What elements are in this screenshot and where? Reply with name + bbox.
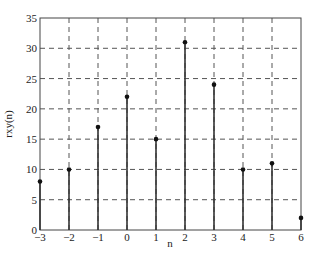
x-tick-label: 0 <box>124 231 130 243</box>
y-tick-label: 0 <box>32 224 38 236</box>
x-tick-label: 6 <box>298 231 304 243</box>
grid-lines <box>40 18 301 230</box>
data-stems <box>38 40 304 230</box>
y-tick-label: 20 <box>26 103 38 115</box>
x-tick-label: 1 <box>153 231 159 243</box>
x-tick-label: 2 <box>182 231 188 243</box>
stem-marker <box>270 161 275 166</box>
x-tick-label: 4 <box>240 231 246 243</box>
x-tick-label: −2 <box>63 231 75 243</box>
stem-marker <box>299 216 304 221</box>
y-tick-label: 5 <box>32 194 38 206</box>
y-tick-label: 30 <box>26 42 38 54</box>
stem-marker <box>38 179 43 184</box>
x-axis-label: n <box>167 237 173 249</box>
y-tick-label: 10 <box>26 163 38 175</box>
stem-marker <box>125 94 130 99</box>
y-tick-label: 25 <box>26 73 38 85</box>
x-tick-label: −1 <box>92 231 104 243</box>
plot-area-frame <box>40 18 301 230</box>
y-tick-label: 35 <box>26 12 38 24</box>
y-axis-label: rxy(n) <box>2 110 15 138</box>
y-axis-ticks: 05101520253035 <box>26 12 38 236</box>
stem-marker <box>67 167 72 172</box>
stem-marker <box>154 137 159 142</box>
stem-marker <box>183 40 188 45</box>
stem-chart: −3−2−10123456 05101520253035 n rxy(n) <box>0 0 312 265</box>
x-tick-label: 3 <box>211 231 217 243</box>
stem-marker <box>212 82 217 87</box>
stem-marker <box>241 167 246 172</box>
y-tick-label: 15 <box>26 133 38 145</box>
x-tick-label: 5 <box>269 231 275 243</box>
stem-marker <box>96 125 101 130</box>
